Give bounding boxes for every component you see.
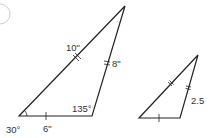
large-right-side-label: 8" xyxy=(112,58,121,69)
large-long-side-label: 10" xyxy=(66,42,80,53)
problem-number-circle xyxy=(0,4,10,24)
large-triangle: 10" 8" 6" 30° 135° xyxy=(6,6,125,135)
angle-arc-30 xyxy=(25,111,27,116)
large-right-side-tick xyxy=(104,61,110,62)
small-triangle: 2.5 xyxy=(139,55,204,122)
angle-bottom-left-label: 30° xyxy=(6,124,21,135)
small-right-side-label: 2.5 xyxy=(191,95,204,106)
small-right-side-tick xyxy=(186,86,191,87)
angle-bottom-right-label: 135° xyxy=(72,103,92,114)
large-right-side-tick xyxy=(104,64,110,65)
large-triangle-outline xyxy=(19,6,125,116)
similar-triangles-diagram: 10" 8" 6" 30° 135° 2.5 xyxy=(0,0,212,138)
small-right-side-tick xyxy=(186,89,191,90)
large-bottom-side-label: 6" xyxy=(43,123,52,134)
